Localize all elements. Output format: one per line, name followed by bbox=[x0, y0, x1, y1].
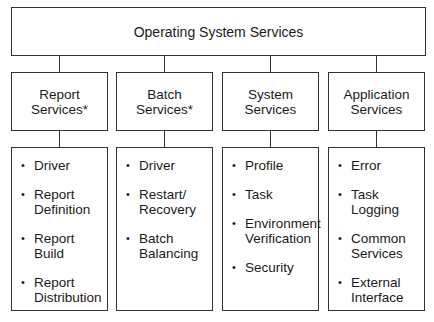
connector-root-to-report-services bbox=[59, 56, 60, 72]
node-report-services: Report Services* bbox=[11, 72, 108, 131]
node-label: System Services bbox=[245, 87, 297, 117]
list-batch-services: DriverRestart/ RecoveryBatch Balancing bbox=[116, 147, 213, 311]
list-item: Environment Verification bbox=[232, 216, 312, 246]
connector-report-services-to-list bbox=[59, 131, 60, 147]
list-item: Error bbox=[338, 158, 418, 173]
root-node-operating-system-services: Operating System Services bbox=[11, 7, 426, 56]
node-label: Application Services bbox=[343, 87, 409, 117]
node-application-services: Application Services bbox=[328, 72, 425, 131]
list-item: External Interface bbox=[338, 275, 418, 305]
list-item: Report Build bbox=[21, 231, 101, 261]
list-item: Task Logging bbox=[338, 187, 418, 217]
node-system-services: System Services bbox=[222, 72, 319, 131]
list-item: Report Definition bbox=[21, 187, 101, 217]
list-item: Report Distribution bbox=[21, 275, 101, 305]
list-item: Profile bbox=[232, 158, 312, 173]
connector-batch-services-to-list bbox=[164, 131, 165, 147]
list-application-services: ErrorTask LoggingCommon ServicesExternal… bbox=[328, 147, 425, 311]
node-label: Report Services* bbox=[31, 87, 88, 117]
connector-root-to-application-services bbox=[376, 56, 377, 72]
root-label: Operating System Services bbox=[134, 24, 304, 40]
list-report-services: DriverReport DefinitionReport BuildRepor… bbox=[11, 147, 108, 311]
list-item: Batch Balancing bbox=[126, 231, 206, 261]
list-item: Driver bbox=[126, 158, 206, 173]
list-item: Task bbox=[232, 187, 312, 202]
connector-system-services-to-list bbox=[270, 131, 271, 147]
node-batch-services: Batch Services* bbox=[116, 72, 213, 131]
connector-application-services-to-list bbox=[376, 131, 377, 147]
list-item: Common Services bbox=[338, 231, 418, 261]
node-label: Batch Services* bbox=[136, 87, 193, 117]
list-item: Restart/ Recovery bbox=[126, 187, 206, 217]
list-system-services: ProfileTaskEnvironment VerificationSecur… bbox=[222, 147, 319, 311]
connector-root-to-batch-services bbox=[164, 56, 165, 72]
list-item: Driver bbox=[21, 158, 101, 173]
list-item: Security bbox=[232, 260, 312, 275]
connector-root-to-system-services bbox=[270, 56, 271, 72]
